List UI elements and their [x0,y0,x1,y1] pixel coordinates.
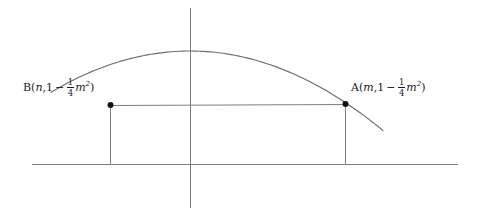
figure-canvas [0,0,477,221]
point-a-label: A(m,1−14m2) [351,78,426,97]
parabola-curve [51,51,383,131]
point-b-minus: − [55,82,64,93]
point-b-exponent: 2 [86,81,90,88]
point-a-exponent: 2 [417,81,421,88]
point-a-variable: m [406,82,416,93]
point-a-minus: − [386,82,395,93]
point-b-variable: m [75,82,85,93]
point-b-one: 1 [46,82,53,93]
point-b-fraction-numerator: 1 [67,78,74,87]
point-b-fraction: 14 [67,78,74,97]
point-b-marker [108,102,114,108]
point-b-fraction-denominator: 4 [67,88,74,97]
point-a-fraction-denominator: 4 [398,88,405,97]
point-a-close-paren: ) [421,82,425,93]
point-b-name: B [23,82,31,93]
parabola-figure: B(n,1−14m2) A(m,1−14m2) [0,0,477,221]
rectangle-top-edge [110,105,346,106]
point-a-x-value: m [363,82,373,93]
point-a-fraction-numerator: 1 [398,78,405,87]
point-b-close-paren: ) [90,82,94,93]
point-b-label: B(n,1−14m2) [23,78,94,97]
point-a-one: 1 [377,82,384,93]
point-a-fraction: 14 [398,78,405,97]
point-a-name: A [351,82,359,93]
point-b-x-value: n [35,82,42,93]
point-a-marker [343,101,349,107]
